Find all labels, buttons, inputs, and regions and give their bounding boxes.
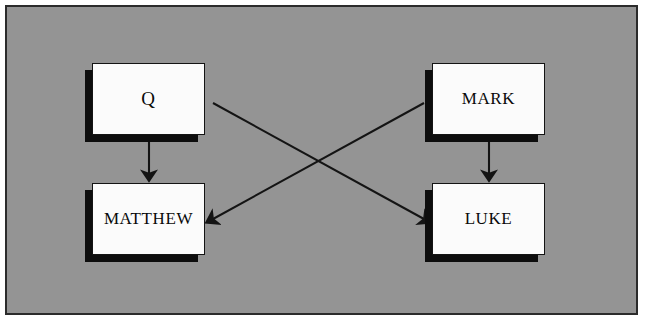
node-luke-label: LUKE [465,209,513,229]
diagram-panel [5,5,638,315]
node-q-label: Q [141,88,155,110]
node-matthew[interactable]: MATTHEW [92,183,205,255]
node-luke[interactable]: LUKE [432,183,545,255]
node-matthew-label: MATTHEW [104,209,193,229]
diagram-canvas: Q MARK MATTHEW LUKE [0,0,647,327]
node-mark-label: MARK [462,89,515,109]
node-q[interactable]: Q [92,63,205,135]
node-mark[interactable]: MARK [432,63,545,135]
